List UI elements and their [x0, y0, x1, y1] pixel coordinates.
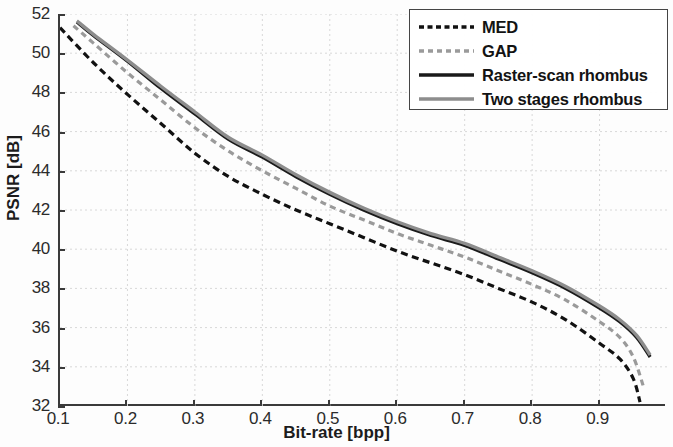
legend-swatch-icon: [418, 93, 475, 105]
chart-figure: PSNR [dB] 3234363840424446485052 0.10.20…: [0, 0, 673, 447]
legend-label: Two stages rhombus: [482, 90, 642, 109]
y-tick-label: 36: [20, 318, 50, 338]
x-tick-mark: [395, 400, 397, 406]
y-tick-label: 46: [20, 122, 50, 142]
x-tick-mark: [125, 400, 127, 406]
legend-label: GAP: [482, 42, 517, 61]
y-tick-mark: [58, 328, 65, 330]
legend-swatch-icon: [418, 45, 475, 57]
y-tick-mark: [58, 249, 65, 251]
x-tick-mark: [260, 400, 262, 406]
y-tick-label: 42: [20, 200, 50, 220]
legend-swatch-icon: [418, 69, 475, 81]
legend-label: MED: [482, 18, 518, 37]
legend-swatch-icon: [418, 21, 475, 33]
legend-item-gap[interactable]: GAP: [410, 39, 667, 63]
y-tick-label: 40: [20, 239, 50, 259]
x-tick-mark: [328, 400, 330, 406]
y-tick-mark: [58, 132, 65, 134]
y-tick-label: 34: [20, 357, 50, 377]
y-tick-mark: [58, 92, 65, 94]
y-tick-mark: [58, 171, 65, 173]
y-tick-mark: [58, 14, 65, 16]
y-tick-label: 38: [20, 278, 50, 298]
x-tick-mark: [463, 400, 465, 406]
y-tick-mark: [58, 210, 65, 212]
x-tick-mark: [530, 400, 532, 406]
x-tick-mark: [58, 400, 60, 406]
y-tick-mark: [58, 53, 65, 55]
x-tick-mark: [598, 400, 600, 406]
y-tick-label: 48: [20, 82, 50, 102]
legend-label: Raster-scan rhombus: [482, 66, 648, 85]
y-tick-label: 52: [20, 4, 50, 24]
legend-item-med[interactable]: MED: [410, 15, 667, 39]
y-tick-mark: [58, 288, 65, 290]
x-axis-label: Bit-rate [bpp]: [0, 423, 673, 443]
legend-item-two-stages-rhombus[interactable]: Two stages rhombus: [410, 87, 667, 111]
legend-item-raster-scan-rhombus[interactable]: Raster-scan rhombus: [410, 63, 667, 87]
y-tick-mark: [58, 406, 65, 408]
y-tick-label: 50: [20, 43, 50, 63]
chart-legend: MEDGAPRaster-scan rhombusTwo stages rhom…: [409, 9, 668, 110]
x-tick-mark: [193, 400, 195, 406]
y-tick-mark: [58, 367, 65, 369]
y-tick-label: 44: [20, 161, 50, 181]
